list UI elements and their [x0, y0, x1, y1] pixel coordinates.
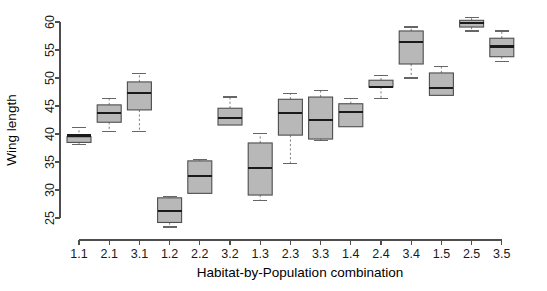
- x-tick-label: 1.2: [161, 247, 178, 261]
- box-plot-item: [339, 98, 363, 127]
- box-body: [339, 104, 363, 127]
- box-plot-item: [369, 76, 393, 98]
- box-body: [399, 31, 423, 64]
- x-tick-label: 1.4: [342, 247, 359, 261]
- box-plot-item: [188, 160, 212, 194]
- x-tick-label: 3.3: [312, 247, 329, 261]
- x-tick-label: 1.1: [70, 247, 87, 261]
- box-plot-item: [460, 18, 484, 31]
- box-body: [309, 97, 333, 139]
- x-tick-label: 2.4: [372, 247, 389, 261]
- y-tick-label: 30: [43, 183, 57, 197]
- y-tick-label: 50: [43, 71, 57, 85]
- box-body: [67, 137, 91, 143]
- boxplot-canvas: 2530354045505560 1.12.13.11.22.23.21.32.…: [0, 0, 547, 291]
- x-tick-label: 3.4: [403, 247, 420, 261]
- x-axis-tick-labels: 1.12.13.11.22.23.21.32.33.31.42.43.41.52…: [70, 247, 510, 261]
- box-plot-item: [429, 66, 453, 95]
- y-tick-label: 45: [43, 99, 57, 113]
- box-plot-item: [67, 128, 91, 144]
- y-tick-label: 40: [43, 127, 57, 141]
- box-plot-item: [218, 97, 242, 125]
- x-tick-label: 3.5: [493, 247, 510, 261]
- box-plot-series: [67, 18, 514, 227]
- x-tick-label: 3.2: [221, 247, 238, 261]
- box-plot-item: [248, 133, 272, 200]
- y-tick-label: 35: [43, 155, 57, 169]
- x-axis-title: Habitat-by-Population combination: [197, 265, 403, 280]
- x-tick-label: 2.2: [191, 247, 208, 261]
- x-tick-label: 1.5: [433, 247, 450, 261]
- x-tick-label: 2.3: [282, 247, 299, 261]
- y-axis-tick-labels: 2530354045505560: [43, 15, 57, 225]
- box-plot-item: [399, 27, 423, 78]
- y-axis-title: Wing length: [4, 94, 19, 165]
- box-body: [429, 73, 453, 95]
- box-plot-item: [278, 93, 302, 163]
- y-axis: 2530354045505560: [43, 15, 60, 225]
- boxplot-figure: 2530354045505560 1.12.13.11.22.23.21.32.…: [0, 0, 547, 291]
- x-tick-label: 2.1: [101, 247, 118, 261]
- y-tick-label: 60: [43, 15, 57, 29]
- x-tick-label: 3.1: [131, 247, 148, 261]
- box-body: [278, 99, 302, 135]
- x-axis-ticks: [79, 240, 502, 245]
- box-body: [127, 82, 151, 110]
- x-axis: 1.12.13.11.22.23.21.32.33.31.42.43.41.52…: [70, 240, 510, 261]
- y-tick-label: 25: [43, 211, 57, 225]
- box-plot-item: [127, 74, 151, 132]
- x-tick-label: 1.3: [252, 247, 269, 261]
- box-plot-item: [490, 31, 514, 62]
- box-plot-item: [97, 98, 121, 131]
- y-tick-label: 55: [43, 43, 57, 57]
- box-plot-item: [158, 196, 182, 227]
- x-tick-label: 2.5: [463, 247, 480, 261]
- box-plot-item: [309, 91, 333, 140]
